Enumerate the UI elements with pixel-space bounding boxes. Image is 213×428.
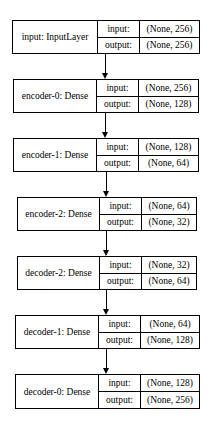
- output-shape: (None, 64): [139, 155, 198, 172]
- node-name: encoder-2: Dense: [18, 198, 100, 230]
- output-shape: (None, 128): [139, 96, 198, 113]
- edge-0-1: [105, 54, 106, 74]
- node-name: input: InputLayer: [13, 21, 98, 53]
- output-label: output:: [97, 96, 138, 113]
- input-label: input:: [97, 139, 138, 155]
- input-shape: (None, 32): [142, 257, 196, 273]
- input-shape: (None, 256): [140, 21, 199, 37]
- output-shape: (None, 64): [142, 273, 196, 290]
- output-shape: (None, 32): [142, 214, 196, 231]
- edge-5-6: [106, 349, 107, 369]
- output-label: output:: [100, 214, 141, 231]
- node-encoder-0: encoder-0: Dense input: output: (None, 2…: [13, 79, 199, 113]
- input-shape: (None, 64): [142, 198, 196, 214]
- input-label: input:: [98, 21, 139, 37]
- node-name: decoder-0: Dense: [16, 375, 99, 408]
- input-label: input:: [99, 316, 140, 332]
- node-decoder-1: decoder-1: Dense input: output: (None, 6…: [15, 315, 200, 349]
- edge-2-3: [106, 172, 107, 192]
- node-name: decoder-2: Dense: [18, 257, 100, 289]
- node-name: encoder-1: Dense: [14, 139, 97, 171]
- edge-1-2: [105, 113, 106, 133]
- edge-4-5: [106, 290, 107, 310]
- input-shape: (None, 128): [141, 375, 199, 391]
- input-shape: (None, 64): [141, 316, 199, 332]
- input-label: input:: [97, 80, 138, 96]
- output-label: output:: [99, 332, 140, 349]
- input-shape: (None, 256): [139, 80, 198, 96]
- output-label: output:: [100, 273, 141, 290]
- node-name: encoder-0: Dense: [14, 80, 97, 112]
- output-label: output:: [97, 155, 138, 172]
- node-decoder-2: decoder-2: Dense input: output: (None, 3…: [17, 256, 197, 290]
- output-label: output:: [98, 37, 139, 54]
- node-encoder-2: encoder-2: Dense input: output: (None, 6…: [17, 197, 197, 231]
- node-decoder-0: decoder-0: Dense input: output: (None, 1…: [15, 374, 200, 409]
- node-encoder-1: encoder-1: Dense input: output: (None, 1…: [13, 138, 199, 172]
- input-shape: (None, 128): [139, 139, 198, 155]
- output-shape: (None, 256): [141, 391, 199, 408]
- node-input-layer: input: InputLayer input: output: (None, …: [12, 20, 200, 54]
- input-label: input:: [100, 257, 141, 273]
- node-name: decoder-1: Dense: [16, 316, 99, 348]
- output-shape: (None, 128): [141, 332, 199, 349]
- edge-3-4: [106, 231, 107, 251]
- output-shape: (None, 256): [140, 37, 199, 54]
- output-label: output:: [99, 391, 140, 408]
- input-label: input:: [100, 198, 141, 214]
- input-label: input:: [99, 375, 140, 391]
